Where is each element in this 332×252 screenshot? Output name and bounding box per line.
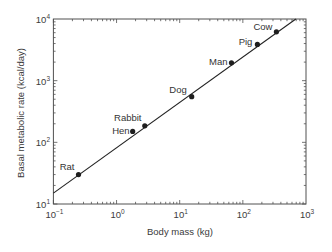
y-axis-title: Basal metabolic rate (kcal/day) (15, 48, 26, 178)
tick-exponent: 3 (46, 75, 50, 82)
point-marker (255, 42, 260, 47)
point-label: Hen (112, 125, 129, 136)
x-tick-label: 100 (110, 208, 125, 220)
point-marker (76, 172, 81, 177)
chart-canvas: 10−1100101102103 101102103104 RatHenRabb… (0, 0, 332, 252)
y-tick-label: 103 (36, 75, 51, 87)
x-tick-labels: 10−1100101102103 (45, 208, 314, 220)
axis-ticks (53, 19, 306, 204)
point-label: Man (209, 56, 227, 67)
data-point-pig: Pig (239, 36, 260, 47)
tick-exponent: 3 (310, 208, 314, 215)
tick-base: 10 (300, 209, 311, 220)
tick-exponent: −1 (56, 208, 64, 215)
y-tick-label: 104 (36, 13, 51, 25)
point-label: Rat (60, 161, 75, 172)
data-point-man: Man (209, 56, 234, 67)
x-axis-title: Body mass (kg) (147, 226, 213, 237)
tick-base: 10 (45, 209, 56, 220)
x-tick-label: 101 (174, 208, 189, 220)
point-label: Cow (253, 21, 272, 32)
tick-exponent: 1 (184, 208, 188, 215)
point-marker (274, 29, 279, 34)
plot-area-border (53, 19, 306, 204)
tick-exponent: 1 (46, 198, 50, 205)
point-label: Pig (239, 36, 253, 47)
y-tick-labels: 101102103104 (36, 13, 51, 210)
chart-figure: 10−1100101102103 101102103104 RatHenRabb… (0, 0, 332, 252)
tick-exponent: 2 (247, 208, 251, 215)
tick-base: 10 (237, 209, 248, 220)
point-marker (130, 129, 135, 134)
data-point-hen: Hen (112, 125, 135, 136)
tick-exponent: 4 (46, 13, 50, 20)
data-point-dog: Dog (169, 84, 194, 100)
x-tick-label: 10−1 (45, 208, 63, 220)
point-marker (189, 94, 194, 99)
data-point-rat: Rat (60, 161, 81, 178)
tick-base: 10 (110, 209, 121, 220)
tick-exponent: 2 (46, 136, 50, 143)
y-tick-label: 102 (36, 136, 51, 148)
point-marker (142, 123, 147, 128)
x-tick-label: 103 (300, 208, 315, 220)
tick-base: 10 (36, 76, 47, 87)
point-marker (229, 60, 234, 65)
plot-frame (53, 19, 306, 204)
tick-base: 10 (36, 137, 47, 148)
tick-base: 10 (174, 209, 185, 220)
point-label: Rabbit (114, 112, 142, 123)
tick-base: 10 (36, 199, 47, 210)
point-label: Dog (169, 84, 186, 95)
data-points: RatHenRabbitDogManPigCow (60, 21, 279, 177)
x-tick-label: 102 (237, 208, 252, 220)
tick-exponent: 0 (121, 208, 125, 215)
data-point-cow: Cow (253, 21, 279, 35)
tick-base: 10 (36, 14, 47, 25)
